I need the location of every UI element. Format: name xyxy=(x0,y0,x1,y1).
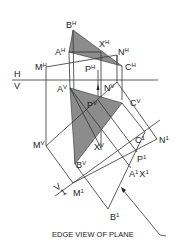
label-ph: PH xyxy=(85,64,95,74)
leader-line xyxy=(123,190,160,235)
label-fold-v1-lower: 1 xyxy=(58,187,68,198)
label-bh: BH xyxy=(66,20,76,30)
projector-n-aux xyxy=(117,82,157,139)
label-ch: CH xyxy=(125,62,136,72)
projector-b-aux xyxy=(75,164,108,209)
label-cv: CV xyxy=(130,98,141,108)
label-c1: C1 xyxy=(135,135,146,145)
leader-tail xyxy=(160,235,166,236)
label-av: AV xyxy=(57,84,67,94)
descriptive-geometry-diagram: BH AH XH NH MH PH CH H V AV NV PV CV MV … xyxy=(0,0,174,247)
projector-m-aux xyxy=(46,146,73,183)
label-fold-v: V xyxy=(14,81,20,91)
leader-arrow-icon xyxy=(121,187,126,193)
caption-edge-view: EDGE VIEW OF PLANE xyxy=(52,230,134,239)
label-nv: NV xyxy=(104,83,115,93)
label-b1: B1 xyxy=(110,212,120,222)
triangle-abc-horizontal-view xyxy=(69,30,122,66)
projector-a xyxy=(69,52,70,88)
label-fold-h: H xyxy=(14,69,21,79)
label-ah: AH xyxy=(55,47,65,57)
label-nh: NH xyxy=(118,47,129,57)
label-n1: N1 xyxy=(159,135,170,145)
label-xv: XV xyxy=(94,142,104,152)
label-bv: BV xyxy=(76,160,86,170)
label-a1x1: A1X1 xyxy=(129,169,149,179)
arrow-p-icon xyxy=(97,84,100,90)
label-mv: MV xyxy=(33,140,45,150)
label-xh: XH xyxy=(99,39,109,49)
label-m1: M1 xyxy=(73,188,85,198)
label-p1: P1 xyxy=(137,154,147,164)
label-mh: MH xyxy=(35,62,47,72)
